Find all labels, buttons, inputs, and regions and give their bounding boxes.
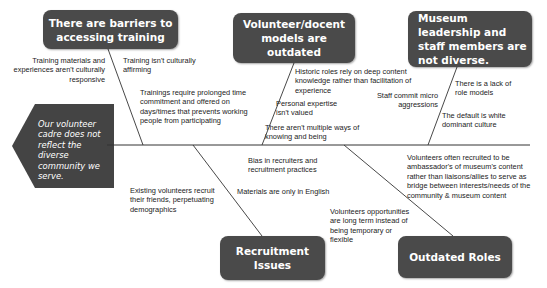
cause-training-affirming: Training isn't culturally affirming — [123, 56, 203, 75]
cause-recruitment-english: Materials are only in English — [237, 187, 332, 196]
cause-roles-ambassadors: Volunteers often recruited to be ambassa… — [407, 153, 537, 200]
cause-leadership-default-culture: The default is white dominant culture — [442, 111, 537, 130]
cause-training-time: Trainings require prolonged time commitm… — [140, 88, 252, 126]
cause-leadership-role-models: There is a lack of role models — [455, 79, 525, 98]
cause-leadership-microaggressions: Staff commit micro aggressions — [368, 91, 438, 110]
cause-training-materials: Training materials and experiences aren'… — [3, 56, 105, 84]
category-leadership-box: Museum leadership and staff members are … — [408, 11, 532, 67]
category-roles-box: Outdated Roles — [398, 236, 512, 278]
cause-recruitment-bias: Bias in recruiters and recruitment pract… — [248, 156, 328, 175]
category-training-box: There are barriers to accessing training — [43, 10, 178, 49]
problem-statement: Our volunteer cadre does not reflect the… — [38, 119, 112, 181]
cause-roles-long-term: Volunteers opportunities are long term i… — [330, 207, 410, 245]
fishbone-diagram: Our volunteer cadre does not reflect the… — [0, 0, 547, 288]
cause-models-ways: There aren't multiple ways of knowing an… — [265, 123, 360, 142]
cause-recruitment-friends: Existing volunteers recruit their friend… — [130, 186, 222, 214]
category-models-box: Volunteer/docent models are outdated — [233, 13, 355, 63]
category-recruitment-box: Recruitment Issues — [220, 236, 325, 280]
cause-models-expertise: Personal expertise isn't valued — [276, 99, 346, 118]
